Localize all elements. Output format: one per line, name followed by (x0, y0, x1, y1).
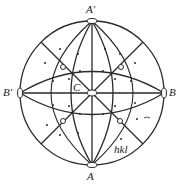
pole-c (87, 90, 97, 96)
label-c: C (73, 82, 80, 93)
pole-b-prime (18, 88, 23, 98)
stereographic-projection (0, 0, 180, 185)
label-hkl: hkl (114, 144, 127, 155)
pole-a (87, 163, 97, 168)
pole-node (119, 65, 124, 70)
label-a-prime: A′ (86, 4, 95, 15)
pole-node (61, 119, 66, 124)
label-a: A (87, 171, 94, 182)
pole-node (61, 65, 66, 70)
label-b: B (169, 87, 176, 98)
pole-node (118, 119, 123, 124)
pole-b (162, 88, 167, 98)
pole-a-prime (87, 19, 97, 24)
label-b-prime: B′ (3, 87, 12, 98)
